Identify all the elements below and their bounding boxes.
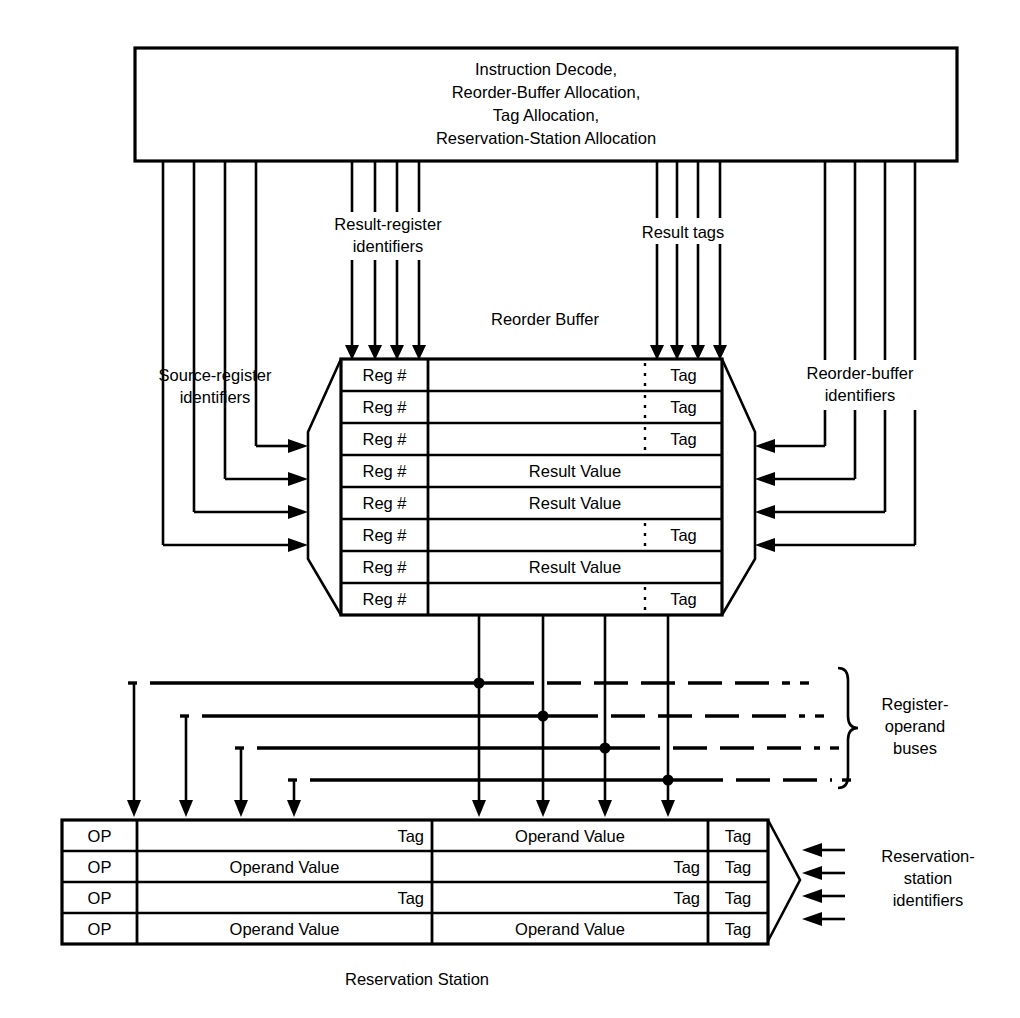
rob-value-cell: Result Value <box>529 462 621 480</box>
reorder-buffer-ids-label-1: Reorder-buffer <box>806 364 914 382</box>
rob-reg-cell: Reg # <box>362 526 407 544</box>
bus-junction-dot <box>538 711 549 722</box>
rob-value-cell: Result Value <box>529 494 621 512</box>
rs-ids-label-3: identifiers <box>893 891 964 909</box>
decode-line-3: Tag Allocation, <box>493 106 599 124</box>
buses-label-3: buses <box>893 739 937 757</box>
rs-op-cell: OP <box>88 889 112 907</box>
bus-junction-dot <box>663 775 674 786</box>
buses-label-2: operand <box>885 717 946 735</box>
rob-reg-cell: Reg # <box>362 430 407 448</box>
bus-junction-dot <box>474 678 485 689</box>
rob-tag-cell: Tag <box>670 526 697 544</box>
reorder-buffer-diagram: Instruction Decode, Reorder-Buffer Alloc… <box>0 0 1020 1018</box>
register-operand-buses-brace <box>838 668 858 788</box>
rs-field1-value: Operand Value <box>230 920 340 938</box>
bus-junction-dot <box>600 743 611 754</box>
arrowhead <box>288 439 308 453</box>
buses-label-1: Register- <box>882 695 949 713</box>
result-tags-wires <box>650 161 727 360</box>
result-register-identifier-wires <box>345 161 426 360</box>
rob-value-cell: Result Value <box>529 558 621 576</box>
rob-reg-cell: Reg # <box>362 398 407 416</box>
decode-line-4: Reservation-Station Allocation <box>436 129 656 147</box>
arrowhead <box>288 472 308 486</box>
decode-line-1: Instruction Decode, <box>475 60 617 78</box>
source-register-identifier-wires <box>163 161 308 552</box>
rs-dest-tag: Tag <box>725 889 752 907</box>
rs-field2-tag: Tag <box>673 889 700 907</box>
rs-dest-tag: Tag <box>725 920 752 938</box>
rob-reg-cell: Reg # <box>362 558 407 576</box>
reorder-buffer-identifier-wires <box>755 161 915 552</box>
rs-op-cell: OP <box>88 827 112 845</box>
rs-field1-value: Operand Value <box>230 858 340 876</box>
reorder-buffer-title: Reorder Buffer <box>491 310 599 328</box>
arrowhead <box>288 538 308 552</box>
rs-field1-tag: Tag <box>397 889 424 907</box>
arrowhead <box>288 505 308 519</box>
rob-reg-cell: Reg # <box>362 366 407 384</box>
diagram-caption: Reservation Station <box>345 970 489 988</box>
source-register-label-1: Source-register <box>159 366 272 384</box>
register-operand-buses <box>128 678 851 786</box>
reorder-buffer-ids-label-2: identifiers <box>825 386 896 404</box>
rs-ids-label-2: station <box>904 869 953 887</box>
reservation-station-identifier-wires <box>802 843 845 926</box>
rs-ids-label-1: Reservation- <box>881 847 975 865</box>
decode-line-2: Reorder-Buffer Allocation, <box>452 83 641 101</box>
rs-field2-tag: Tag <box>673 858 700 876</box>
rob-tag-cell: Tag <box>670 590 697 608</box>
bus-tap-wires <box>127 683 301 817</box>
rob-reg-cell: Reg # <box>362 590 407 608</box>
rob-tag-cell: Tag <box>670 366 697 384</box>
rs-field2-value: Operand Value <box>515 827 625 845</box>
reservation-station-funnel <box>768 820 800 941</box>
rob-tag-cell: Tag <box>670 430 697 448</box>
result-register-label-1: Result-register <box>334 215 442 233</box>
rob-reg-cell: Reg # <box>362 494 407 512</box>
rs-op-cell: OP <box>88 920 112 938</box>
rs-op-cell: OP <box>88 858 112 876</box>
rs-dest-tag: Tag <box>725 827 752 845</box>
source-register-label-2: identifiers <box>180 388 251 406</box>
rob-tag-cell: Tag <box>670 398 697 416</box>
rs-field2-value: Operand Value <box>515 920 625 938</box>
reservation-station-table: OPTagOperand ValueTagOPOperand ValueTagT… <box>62 820 768 944</box>
rs-field1-tag: Tag <box>397 827 424 845</box>
rs-dest-tag: Tag <box>725 858 752 876</box>
result-tags-label: Result tags <box>642 223 725 241</box>
reorder-buffer-table: Reg #TagReg #TagReg #TagReg #Result Valu… <box>341 359 722 615</box>
result-register-label-2: identifiers <box>353 237 424 255</box>
rob-reg-cell: Reg # <box>362 462 407 480</box>
